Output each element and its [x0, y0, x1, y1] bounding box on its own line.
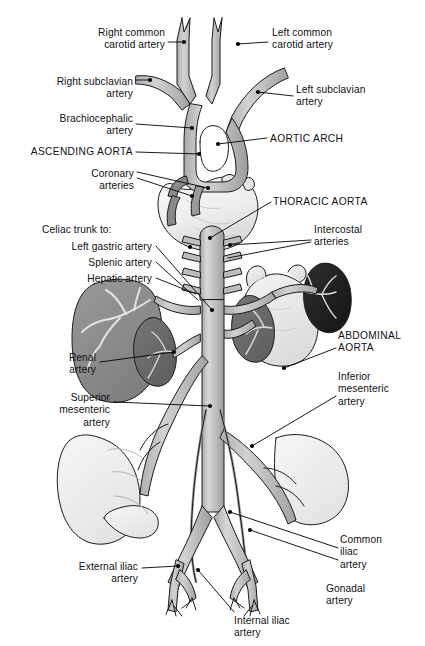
right-kidney: [134, 317, 177, 386]
anatomy-diagram-page: Right common carotid arteryLeft common c…: [0, 0, 425, 646]
label-common-iliac-artery: Common iliac artery: [340, 534, 412, 571]
internal-iliac-artery: [176, 570, 250, 610]
label-gonadal-artery: Gonadal artery: [326, 583, 400, 608]
label-left-subclavian-artery: Left subclavian artery: [296, 84, 416, 109]
label-abdominal-aorta: ABDOMINAL AORTA: [338, 330, 424, 355]
label-celiac-trunk-to: Celiac trunk to:: [42, 224, 152, 236]
label-intercostal-arteries: Intercostal arteries: [314, 224, 404, 249]
label-external-iliac-artery: External iliac artery: [48, 561, 138, 586]
label-aortic-arch: AORTIC ARCH: [270, 133, 380, 145]
label-right-common-carotid-artery: Right common carotid artery: [60, 27, 165, 52]
label-right-subclavian-artery: Right subclavian artery: [18, 76, 133, 101]
label-thoracic-aorta: THORACIC AORTA: [273, 196, 391, 208]
label-superior-mesenteric-artery: Superior mesenteric artery: [32, 392, 110, 429]
label-hepatic-artery: Hepatic artery: [28, 273, 152, 285]
label-renal-artery: Renal artery: [40, 352, 96, 377]
external-iliac-artery: [168, 560, 258, 612]
label-left-gastric-artery: Left gastric artery: [28, 241, 152, 253]
label-ascending-aorta: ASCENDING AORTA: [10, 146, 133, 158]
label-inferior-mesenteric-artery: Inferior mesenteric artery: [338, 371, 422, 408]
label-brachiocephalic-artery: Brachiocephalic artery: [28, 113, 133, 138]
label-splenic-artery: Splenic artery: [28, 257, 152, 269]
left-common-carotid-artery: [206, 18, 222, 104]
pelvic-branches: [166, 600, 260, 616]
label-coronary-arteries: Coronary arteries: [62, 168, 134, 193]
label-internal-iliac-artery: Internal iliac artery: [234, 615, 326, 640]
spleen: [304, 263, 352, 333]
label-left-common-carotid-artery: Left common carotid artery: [272, 27, 392, 52]
